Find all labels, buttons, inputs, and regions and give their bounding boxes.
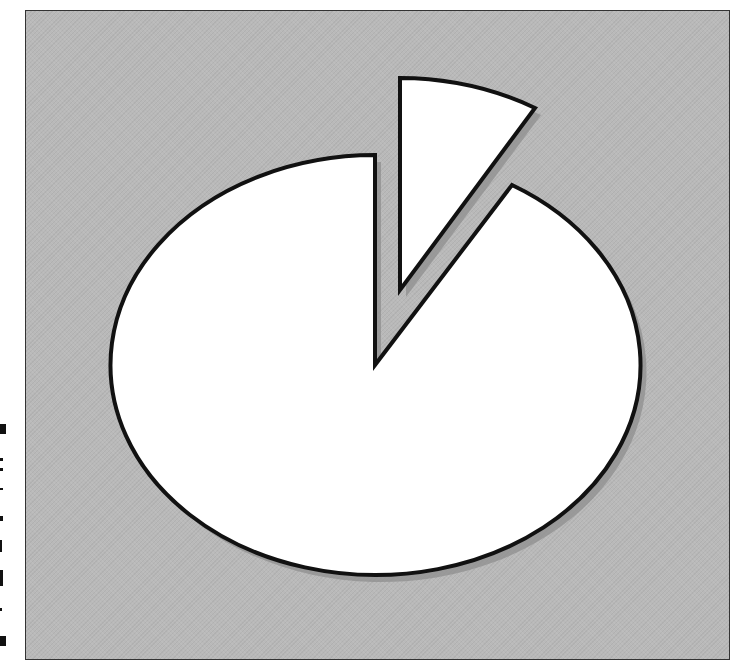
exploded-pie-chart <box>0 0 748 666</box>
pie-slice-main <box>111 155 641 575</box>
